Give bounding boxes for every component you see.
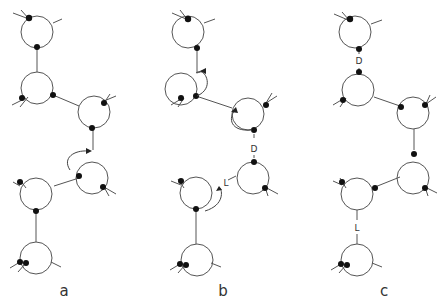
rotation-arrow: [196, 71, 207, 96]
panel-a: a: [10, 10, 116, 300]
rotation-arrow: [67, 151, 88, 170]
bond-a5-a4: [54, 178, 79, 186]
site-dot: [19, 95, 25, 101]
site-dot: [34, 44, 40, 50]
site-dot: [178, 178, 184, 184]
site-dot: [193, 206, 199, 212]
site-dot: [262, 185, 268, 191]
panel-c: D L c: [331, 12, 437, 300]
bond-b4-stub-left: [228, 176, 236, 180]
site-dot: [50, 92, 56, 98]
site-dot: [422, 185, 428, 191]
stub: [172, 13, 186, 19]
site-dot: [17, 179, 23, 185]
arrowhead-icon: [86, 148, 92, 154]
site-dot: [251, 159, 257, 165]
ring-a6: [20, 242, 52, 274]
ring-a1: [21, 16, 53, 48]
ring-b6: [181, 244, 213, 276]
stub: [53, 19, 62, 23]
site-dot: [185, 16, 191, 22]
stub: [371, 20, 382, 24]
site-dot: [411, 151, 417, 157]
bond-b2-b3: [196, 96, 232, 108]
site-dot: [338, 261, 344, 267]
bond-label-l: L: [223, 178, 228, 188]
stub: [372, 263, 382, 267]
rotation-arrow: [205, 188, 221, 211]
site-dot: [177, 261, 183, 267]
ring-a5: [20, 178, 52, 210]
site-dot: [372, 185, 378, 191]
panel-b: D L b: [165, 10, 278, 300]
bond-a2-a3: [53, 95, 79, 106]
bond-label-l: L: [354, 223, 359, 233]
ring-c5: [341, 178, 373, 210]
site-dot: [100, 184, 106, 190]
site-dot: [33, 208, 39, 214]
site-dot: [339, 179, 345, 185]
site-dot: [17, 259, 23, 265]
stub: [51, 262, 61, 267]
bond-label-d: D: [251, 144, 258, 154]
panel-label-c: c: [380, 282, 388, 300]
ring-b3: [232, 98, 264, 130]
site-dot: [89, 125, 95, 131]
panel-label-a: a: [59, 282, 68, 300]
site-dot: [183, 262, 189, 268]
rotation-arrow: [231, 110, 252, 130]
site-dot: [356, 46, 362, 52]
ring-c3: [397, 97, 429, 129]
site-dot: [76, 173, 82, 179]
site-dot: [23, 260, 29, 266]
panel-label-b: b: [218, 282, 228, 300]
stub: [204, 19, 215, 23]
site-dot: [178, 95, 184, 101]
site-dot: [347, 16, 353, 22]
figure-canvas: a: [0, 0, 448, 307]
bond-c5-c4: [375, 177, 400, 187]
site-dot: [398, 104, 404, 110]
bond-label-d: D: [356, 56, 363, 66]
site-dot: [26, 15, 32, 21]
site-dot: [422, 102, 428, 108]
site-dot: [340, 97, 346, 103]
site-dot: [344, 262, 350, 268]
ring-c2: [342, 74, 374, 106]
site-dot: [101, 100, 107, 106]
site-dot: [263, 102, 269, 108]
ring-b5: [180, 177, 212, 209]
ring-c1: [339, 16, 371, 48]
bond-c2-c3: [374, 97, 400, 106]
site-dot: [356, 69, 362, 75]
site-dot: [194, 45, 200, 51]
ring-c6: [341, 244, 373, 276]
